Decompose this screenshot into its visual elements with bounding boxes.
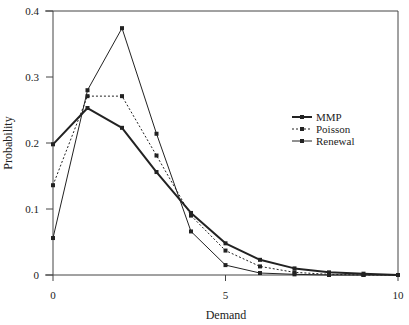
series-renewal: [51, 26, 400, 277]
data-point: [224, 263, 228, 267]
data-point: [120, 126, 124, 130]
y-tick-label: 0.4: [25, 5, 39, 17]
data-point: [120, 94, 124, 98]
data-point: [189, 229, 193, 233]
data-point: [293, 266, 297, 270]
data-point: [362, 273, 366, 277]
x-tick-label: 5: [223, 289, 229, 301]
data-point: [224, 241, 228, 245]
y-tick-label: 0.1: [25, 203, 39, 215]
data-point: [155, 132, 159, 136]
legend-label: MMP: [316, 111, 342, 123]
y-tick-label: 0: [34, 269, 40, 281]
legend-label: Renewal: [316, 135, 354, 147]
x-tick-label: 0: [50, 289, 56, 301]
data-point: [258, 271, 262, 275]
legend-item-poisson: Poisson: [292, 123, 351, 135]
line-chart: 00.10.20.30.4 0510 MMPPoissonRenewal Dem…: [0, 0, 409, 325]
data-point: [293, 272, 297, 276]
x-axis-label: Demand: [206, 308, 247, 322]
data-point: [327, 273, 331, 277]
data-point: [258, 264, 262, 268]
legend-item-mmp: MMP: [292, 111, 342, 123]
data-point: [224, 249, 228, 253]
data-point: [396, 273, 400, 277]
data-point: [51, 183, 55, 187]
legend-label: Poisson: [316, 123, 351, 135]
y-tick-label: 0.2: [25, 137, 39, 149]
x-axis: 0510: [50, 275, 404, 301]
series-poisson: [51, 94, 400, 277]
data-point: [120, 26, 124, 30]
legend: MMPPoissonRenewal: [292, 111, 354, 147]
data-point: [155, 170, 159, 174]
data-point: [51, 142, 55, 146]
data-point: [258, 258, 262, 262]
data-point: [189, 214, 193, 218]
data-point: [51, 236, 55, 240]
data-point: [86, 106, 90, 110]
y-axis-label: Probability: [1, 116, 15, 169]
data-point: [86, 88, 90, 92]
legend-item-renewal: Renewal: [292, 135, 354, 147]
y-tick-label: 0.3: [25, 71, 39, 83]
x-tick-label: 10: [393, 289, 405, 301]
y-axis: 00.10.20.30.4: [25, 5, 53, 281]
series-group: [51, 26, 400, 277]
data-point: [155, 154, 159, 158]
